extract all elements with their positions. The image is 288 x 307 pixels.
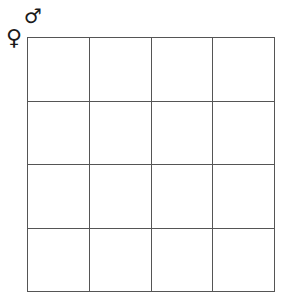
grid-cell <box>213 229 275 293</box>
grid-cell <box>213 38 275 102</box>
grid-cell <box>213 165 275 229</box>
grid-cell <box>28 38 90 102</box>
grid-cell <box>28 165 90 229</box>
grid-cell <box>152 165 214 229</box>
grid-cell <box>90 102 152 166</box>
grid-cell <box>28 229 90 293</box>
grid-cell <box>213 102 275 166</box>
punnett-square-grid <box>27 37 275 292</box>
grid-cell <box>90 229 152 293</box>
male-symbol-icon: ♂ <box>24 6 42 26</box>
grid-cell <box>28 102 90 166</box>
grid-cell <box>90 165 152 229</box>
female-symbol-icon: ♀ <box>6 27 22 49</box>
grid-cell <box>152 102 214 166</box>
grid-cell <box>152 229 214 293</box>
grid-cell <box>152 38 214 102</box>
grid-cell <box>90 38 152 102</box>
